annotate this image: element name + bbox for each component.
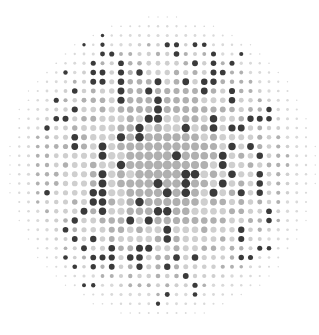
gray-dot xyxy=(163,133,171,141)
gray-dot xyxy=(82,62,85,65)
gray-dot xyxy=(108,161,115,168)
gray-dot xyxy=(267,153,272,158)
gray-dot xyxy=(55,89,58,92)
gray-dot xyxy=(248,125,253,130)
dark-dot xyxy=(192,283,197,288)
gray-dot xyxy=(286,200,289,203)
gray-dot xyxy=(120,34,123,37)
gray-dot xyxy=(136,236,142,242)
gray-dot xyxy=(127,88,133,94)
gray-dot xyxy=(54,228,58,232)
dark-dot xyxy=(266,208,272,214)
gray-dot xyxy=(36,182,40,186)
dark-dot xyxy=(72,236,78,242)
gray-dot xyxy=(135,152,143,160)
gray-dot xyxy=(63,237,67,241)
gray-dot xyxy=(257,162,262,167)
gray-dot xyxy=(202,52,206,56)
gray-dot xyxy=(148,16,149,17)
gray-dot xyxy=(267,144,272,149)
gray-dot xyxy=(200,170,208,178)
dark-dot xyxy=(257,246,262,251)
gray-dot xyxy=(239,265,243,269)
gray-dot xyxy=(27,145,30,148)
gray-dot xyxy=(296,229,298,231)
gray-dot xyxy=(27,163,30,166)
gray-dot xyxy=(192,97,198,103)
gray-dot xyxy=(184,43,188,47)
gray-dot xyxy=(110,274,114,278)
dark-dot xyxy=(211,60,217,66)
gray-dot xyxy=(239,116,244,121)
gray-dot xyxy=(267,172,272,177)
gray-dot xyxy=(276,209,280,213)
gray-dot xyxy=(146,236,152,242)
gray-dot xyxy=(173,217,180,224)
gray-dot xyxy=(111,303,113,305)
gray-dot xyxy=(55,256,58,259)
gray-dot xyxy=(72,153,78,159)
gray-dot xyxy=(145,97,152,104)
gray-dot xyxy=(240,62,243,65)
gray-dot xyxy=(164,106,171,113)
dark-dot xyxy=(248,255,253,260)
gray-dot xyxy=(147,34,150,37)
gray-dot xyxy=(248,153,254,159)
gray-dot xyxy=(211,97,217,103)
dark-dot xyxy=(155,78,162,85)
gray-dot xyxy=(54,209,58,213)
gray-dot xyxy=(157,16,158,17)
gray-dot xyxy=(250,284,252,286)
gray-dot xyxy=(27,173,30,176)
gray-dot xyxy=(278,266,279,267)
gray-dot xyxy=(27,127,30,130)
gray-dot xyxy=(295,173,298,176)
gray-dot xyxy=(220,88,225,93)
gray-dot xyxy=(36,172,40,176)
gray-dot xyxy=(9,164,10,165)
dark-dot xyxy=(117,97,124,104)
dark-dot xyxy=(91,61,96,66)
gray-dot xyxy=(117,152,125,160)
gray-dot xyxy=(305,145,307,147)
gray-dot xyxy=(212,284,215,287)
gray-dot xyxy=(240,274,243,277)
gray-dot xyxy=(163,179,172,188)
dark-dot xyxy=(91,264,96,269)
gray-dot xyxy=(156,61,161,66)
gray-dot xyxy=(109,217,115,223)
gray-dot xyxy=(239,98,244,103)
dark-dot xyxy=(154,96,162,104)
dark-dot xyxy=(181,179,190,188)
gray-dot xyxy=(174,70,179,75)
gray-dot xyxy=(55,62,57,64)
gray-dot xyxy=(204,312,205,313)
gray-dot xyxy=(229,218,235,224)
dark-dot xyxy=(182,78,189,85)
gray-dot xyxy=(175,293,178,296)
gray-dot xyxy=(81,227,86,232)
gray-dot xyxy=(99,217,105,223)
gray-dot xyxy=(239,80,243,84)
gray-dot xyxy=(192,236,198,242)
gray-dot xyxy=(268,62,270,64)
gray-dot xyxy=(248,162,254,168)
gray-dot xyxy=(154,124,162,132)
gray-dot xyxy=(249,80,253,84)
gray-dot xyxy=(146,70,151,75)
gray-dot xyxy=(277,99,280,102)
gray-dot xyxy=(73,62,76,65)
gray-dot xyxy=(118,217,125,224)
gray-dot xyxy=(248,135,253,140)
gray-dot xyxy=(129,312,131,314)
gray-dot xyxy=(54,144,59,149)
gray-dot xyxy=(102,303,104,305)
gray-dot xyxy=(126,133,134,141)
gray-dot xyxy=(109,88,115,94)
gray-dot xyxy=(63,209,68,214)
gray-dot xyxy=(147,43,151,47)
dark-dot xyxy=(99,79,105,85)
gray-dot xyxy=(144,170,153,179)
gray-dot xyxy=(229,180,236,187)
gray-dot xyxy=(101,61,105,65)
